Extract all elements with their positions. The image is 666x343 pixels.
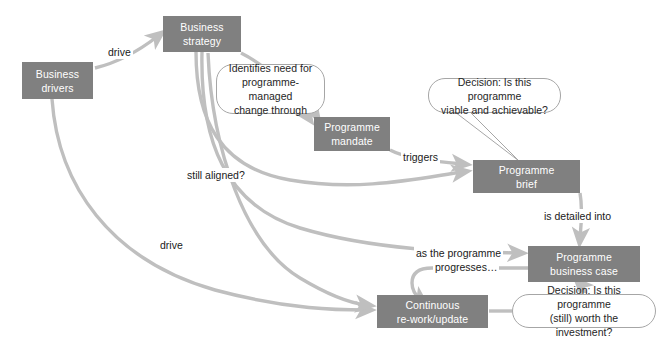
node-programme-mandate[interactable]: Programme mandate [314, 117, 390, 151]
edge-label-progresses: progresses… [433, 260, 499, 274]
callout-identifies-need[interactable]: Identifies need for programme-managed ch… [216, 64, 325, 114]
edge-label-triggers: triggers [401, 150, 440, 164]
diagram-canvas: Business drivers Business strategy Progr… [0, 0, 666, 343]
edge-label-is-detailed-into: is detailed into [542, 209, 613, 223]
edge-label-drive-top: drive [106, 45, 133, 59]
callout-tail-decision-viable [455, 112, 519, 161]
node-business-strategy-line1: Business [180, 20, 223, 34]
node-programme-business-case[interactable]: Programme business case [528, 246, 640, 282]
node-continuous-rework-line2: re-work/update [397, 312, 468, 326]
node-programme-business-case-line2: business case [550, 264, 618, 278]
node-continuous-rework-line1: Continuous [397, 298, 468, 312]
node-continuous-rework[interactable]: Continuous re-work/update [377, 295, 488, 328]
callout-identifies-need-line2: programme-managed [226, 75, 315, 103]
callout-identifies-need-line1: Identifies need for [226, 61, 315, 75]
edge-label-as-the-programme: as the programme [414, 246, 503, 260]
edge-label-drive-bottom: drive [158, 238, 185, 252]
edge-label-still-aligned: still aligned? [185, 168, 247, 182]
node-programme-brief-line1: Programme [499, 163, 555, 177]
callout-identifies-need-line3: change through [226, 103, 315, 117]
node-business-drivers[interactable]: Business drivers [22, 62, 93, 99]
callout-decision-worth-line1: Decision: Is this programme [522, 283, 646, 311]
node-programme-brief[interactable]: Programme brief [473, 160, 580, 193]
node-business-drivers-line1: Business [36, 67, 79, 81]
node-programme-mandate-line2: mandate [324, 134, 380, 148]
callout-decision-viable-line1: Decision: Is this programme [438, 75, 551, 103]
callout-decision-worth-line2: (still) worth the investment? [522, 311, 646, 339]
node-programme-mandate-line1: Programme [324, 120, 380, 134]
callout-decision-viable[interactable]: Decision: Is this programme viable and a… [428, 78, 561, 113]
callout-decision-viable-line2: viable and achievable? [438, 103, 551, 117]
node-programme-brief-line2: brief [499, 177, 555, 191]
node-programme-business-case-line1: Programme [550, 250, 618, 264]
node-business-strategy[interactable]: Business strategy [163, 16, 241, 52]
node-business-strategy-line2: strategy [180, 34, 223, 48]
callout-decision-worth[interactable]: Decision: Is this programme (still) wort… [512, 294, 656, 328]
node-business-drivers-line2: drivers [36, 81, 79, 95]
